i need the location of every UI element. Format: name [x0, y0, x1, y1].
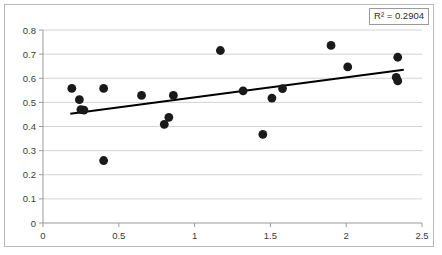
data-point: [164, 113, 173, 122]
r-squared-label: R² = 0.2904: [374, 10, 424, 21]
y-tick-label: 0.2: [23, 169, 36, 180]
x-tick-label: 2.5: [415, 230, 428, 241]
data-point: [239, 86, 248, 95]
x-tick-label: 2: [344, 230, 349, 241]
y-tick-label: 0.4: [23, 121, 36, 132]
trendline-path: [70, 70, 404, 114]
scatter-plot: 00.10.20.30.40.50.60.70.8 00.511.522.5: [5, 5, 433, 246]
y-tick-label: 0.5: [23, 97, 36, 108]
data-point: [278, 84, 287, 93]
data-point: [327, 41, 336, 50]
data-point: [75, 95, 84, 104]
axes-group: [39, 30, 422, 227]
y-tick-label: 0.7: [23, 49, 36, 60]
y-tick-label: 0.8: [23, 25, 36, 36]
y-tick-label: 0.3: [23, 145, 36, 156]
x-tick-label: 1: [192, 230, 197, 241]
data-point: [393, 77, 402, 86]
data-point: [343, 63, 352, 72]
x-axis-tick-labels: 00.511.522.5: [40, 230, 428, 241]
data-points-group: [67, 41, 402, 165]
trendline: [70, 70, 404, 114]
data-point: [258, 130, 267, 139]
y-axis-tick-labels: 00.10.20.30.40.50.60.70.8: [23, 25, 36, 229]
data-point: [67, 84, 76, 93]
y-tick-label: 0.1: [23, 193, 36, 204]
data-point: [99, 84, 108, 93]
data-point: [77, 105, 86, 114]
r-squared-annotation: R² = 0.2904: [369, 8, 429, 25]
data-point: [268, 94, 277, 103]
data-point: [216, 46, 225, 55]
data-point: [99, 156, 108, 165]
data-point: [169, 91, 178, 100]
data-point: [393, 53, 402, 62]
x-tick-label: 0: [40, 230, 45, 241]
data-point: [137, 91, 146, 100]
y-tick-label: 0: [31, 218, 36, 229]
gridlines-group: [43, 30, 422, 199]
y-tick-label: 0.6: [23, 73, 36, 84]
x-tick-label: 1.5: [264, 230, 277, 241]
x-tick-label: 0.5: [112, 230, 125, 241]
chart-frame: 00.10.20.30.40.50.60.70.8 00.511.522.5 R…: [4, 4, 434, 247]
